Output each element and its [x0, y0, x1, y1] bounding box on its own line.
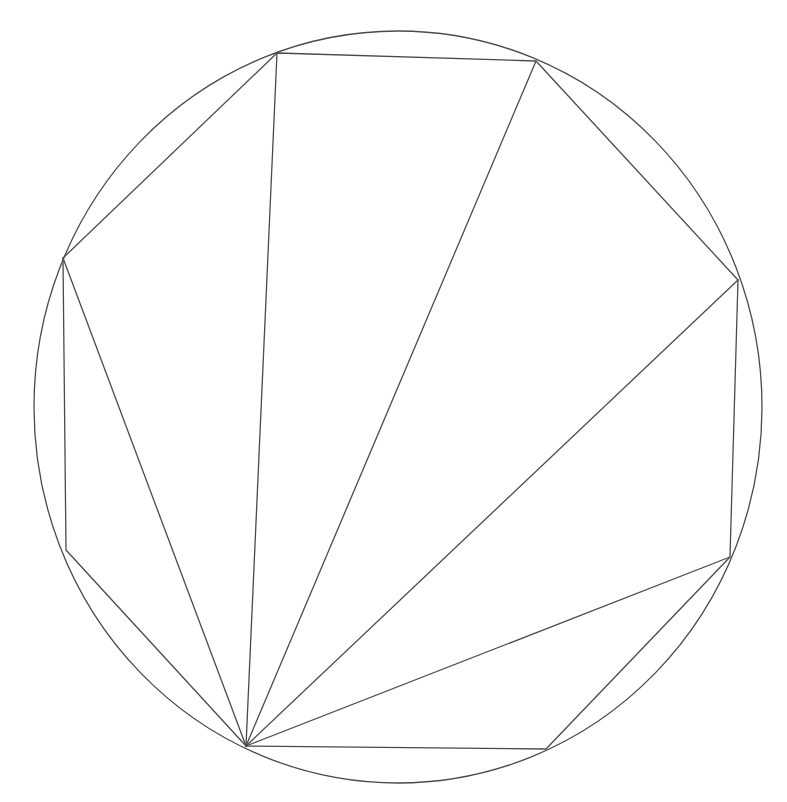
fan-diagonals [63, 53, 738, 746]
diagonal-F-D [246, 557, 730, 746]
circumscribed-circle [34, 31, 762, 783]
diagonal-F-C [246, 280, 738, 746]
diagonal-F-A [246, 53, 277, 746]
inscribed-octagon [63, 53, 738, 749]
diagonal-F-B [246, 61, 536, 746]
diagram-canvas [0, 0, 787, 802]
diagonal-F-H [63, 258, 246, 746]
